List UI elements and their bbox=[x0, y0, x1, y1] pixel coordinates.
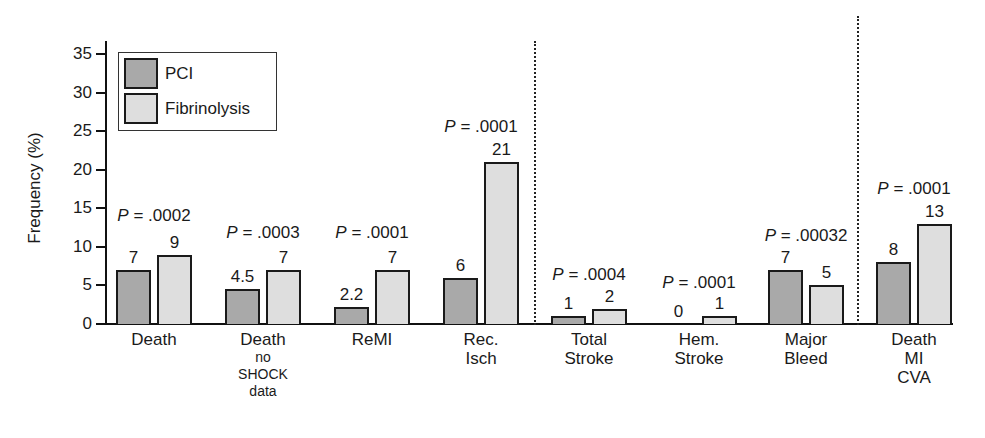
y-tick-label: 5 bbox=[83, 275, 92, 295]
y-axis-label: Frequency (%) bbox=[25, 132, 45, 243]
y-tick-label: 10 bbox=[73, 237, 92, 257]
bar-pci bbox=[768, 270, 803, 324]
y-tick bbox=[96, 207, 106, 209]
bar-value-label: 0 bbox=[674, 302, 683, 322]
bar-value-label: 21 bbox=[492, 140, 511, 160]
legend-swatch-fibrinolysis bbox=[124, 93, 158, 124]
bar-fibrinolysis bbox=[917, 224, 952, 324]
bar-value-label: 4.5 bbox=[231, 267, 255, 287]
p-value-label: P = .0001 bbox=[662, 273, 735, 293]
y-tick bbox=[96, 323, 106, 325]
y-tick bbox=[96, 169, 106, 171]
p-value-label: P = .0001 bbox=[335, 223, 408, 243]
x-category-label: Death bbox=[131, 330, 176, 349]
legend: PCI Fibrinolysis bbox=[118, 52, 277, 131]
bar-pci bbox=[551, 316, 586, 324]
p-value-label: P = .0001 bbox=[444, 117, 517, 137]
group-divider bbox=[857, 16, 859, 325]
bar-fibrinolysis bbox=[592, 309, 627, 324]
bar-value-label: 2.2 bbox=[340, 285, 364, 305]
bar-chart: Frequency (%) 05101520253035 79P = .0002… bbox=[0, 0, 985, 438]
y-axis-line bbox=[105, 41, 107, 325]
y-tick-label: 0 bbox=[83, 314, 92, 334]
bar-value-label: 2 bbox=[605, 287, 614, 307]
y-tick-label: 30 bbox=[73, 83, 92, 103]
y-tick-label: 25 bbox=[73, 121, 92, 141]
legend-label-fibrinolysis: Fibrinolysis bbox=[165, 99, 250, 119]
y-tick bbox=[96, 53, 106, 55]
bar-value-label: 8 bbox=[889, 240, 898, 260]
bar-pci bbox=[334, 307, 369, 324]
bar-value-label: 1 bbox=[715, 294, 724, 314]
group-divider bbox=[534, 41, 536, 325]
legend-swatch-pci bbox=[124, 58, 158, 89]
p-value-label: P = .0004 bbox=[552, 265, 625, 285]
bar-fibrinolysis bbox=[809, 285, 844, 324]
bar-pci bbox=[443, 278, 478, 324]
y-tick-label: 35 bbox=[73, 44, 92, 64]
bar-value-label: 7 bbox=[129, 248, 138, 268]
p-value-label: P = .0002 bbox=[117, 206, 190, 226]
bar-value-label: 6 bbox=[456, 256, 465, 276]
y-tick bbox=[96, 92, 106, 94]
bar-fibrinolysis bbox=[157, 255, 192, 324]
bar-pci bbox=[225, 289, 260, 324]
bar-fibrinolysis bbox=[375, 270, 410, 324]
bar-fibrinolysis bbox=[484, 162, 519, 324]
p-value-label: P = .0003 bbox=[226, 223, 299, 243]
bar-value-label: 9 bbox=[170, 233, 179, 253]
x-category-label: TotalStroke bbox=[564, 330, 613, 368]
bar-value-label: 7 bbox=[781, 248, 790, 268]
bar-value-label: 1 bbox=[564, 294, 573, 314]
bar-value-label: 7 bbox=[279, 248, 288, 268]
y-tick-label: 20 bbox=[73, 160, 92, 180]
y-tick bbox=[96, 284, 106, 286]
legend-label-pci: PCI bbox=[165, 64, 193, 84]
x-category-label: MajorBleed bbox=[784, 330, 827, 368]
p-value-label: P = .00032 bbox=[765, 226, 848, 246]
y-tick-label: 15 bbox=[73, 198, 92, 218]
bar-value-label: 5 bbox=[822, 263, 831, 283]
bar-pci bbox=[876, 262, 911, 324]
bar-value-label: 13 bbox=[925, 202, 944, 222]
x-category-label: Hem.Stroke bbox=[674, 330, 723, 368]
y-tick bbox=[96, 246, 106, 248]
bar-value-label: 7 bbox=[388, 248, 397, 268]
y-tick bbox=[96, 130, 106, 132]
bar-fibrinolysis bbox=[266, 270, 301, 324]
bar-pci bbox=[116, 270, 151, 324]
x-category-label: ReMI bbox=[352, 330, 393, 349]
bar-fibrinolysis bbox=[702, 316, 737, 324]
x-category-label: Rec.Isch bbox=[464, 330, 499, 368]
p-value-label: P = .0001 bbox=[877, 179, 950, 199]
x-category-label: DeathMICVA bbox=[891, 330, 936, 387]
x-category-label: DeathnoSHOCKdata bbox=[238, 330, 288, 400]
